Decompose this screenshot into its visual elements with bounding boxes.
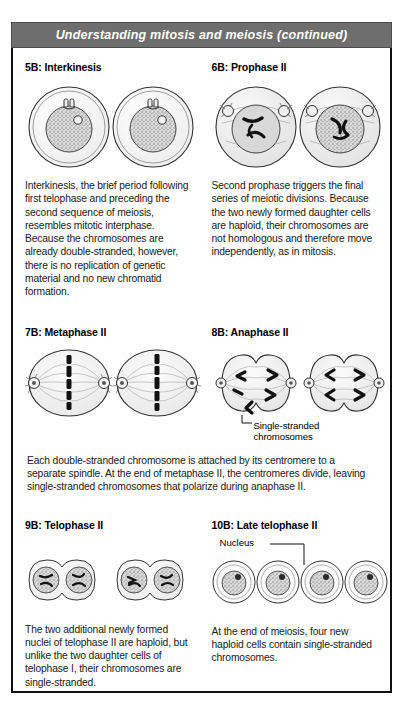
annotation-label-10B: Nucleus bbox=[220, 537, 255, 548]
haploid-cell-2 bbox=[257, 561, 299, 603]
figure-7B bbox=[25, 344, 192, 422]
anaphase-cell-2 bbox=[304, 355, 384, 411]
figure-content: 5B: Interkinesis bbox=[13, 48, 390, 693]
shared-caption-row: Each double-stranded chromosome is attac… bbox=[13, 454, 390, 494]
interkinesis-diagram bbox=[25, 79, 195, 171]
prophase-cell-2 bbox=[300, 87, 380, 167]
panel-heading-8B: 8B: Anaphase II bbox=[212, 326, 381, 338]
prophase-cell-1 bbox=[216, 87, 296, 167]
panel-body-10B: At the end of meiosis, four new haploid … bbox=[212, 625, 381, 665]
haploid-cell-3 bbox=[301, 561, 343, 603]
panel-body-6B: Second prophase triggers the final serie… bbox=[212, 179, 381, 259]
panel-heading-5B: 5B: Interkinesis bbox=[25, 61, 192, 73]
panel-body-5B: Interkinesis, the brief period following… bbox=[25, 179, 192, 299]
telophase-pair-2 bbox=[117, 560, 183, 600]
panel-row-1: 5B: Interkinesis bbox=[13, 48, 390, 299]
annotation-nucleus: Nucleus bbox=[220, 537, 381, 548]
prophase-two-diagram bbox=[212, 79, 382, 171]
aster-right-a1 bbox=[286, 378, 296, 388]
shared-caption: Each double-stranded chromosome is attac… bbox=[27, 454, 376, 494]
telophase-two-diagram bbox=[25, 555, 201, 605]
late-telophase-diagram bbox=[212, 557, 388, 607]
figure-10B bbox=[212, 557, 381, 607]
aster-left-a2 bbox=[304, 378, 314, 388]
panel-5B: 5B: Interkinesis bbox=[13, 48, 202, 299]
figure-8B bbox=[212, 344, 381, 422]
haploid-cell-1 bbox=[213, 561, 255, 603]
panel-body-9B: The two additional newly formed nuclei o… bbox=[25, 623, 192, 689]
panel-heading-9B: 9B: Telophase II bbox=[25, 519, 192, 531]
panel-6B: 6B: Prophase II bbox=[202, 48, 391, 299]
panel-row-3: 9B: Telophase II bbox=[13, 506, 390, 689]
panel-9B: 9B: Telophase II bbox=[13, 506, 202, 689]
interkinesis-cell-1 bbox=[29, 87, 109, 167]
figure-9B bbox=[25, 555, 192, 605]
telophase-pair-1 bbox=[29, 560, 95, 600]
panel-row-2: 7B: Metaphase II bbox=[13, 313, 390, 442]
panel-heading-10B: 10B: Late telophase II bbox=[212, 519, 381, 531]
annotation-single-stranded-chromosomes: Single-stranded chromosomes bbox=[254, 420, 381, 442]
figure-title-bar: Understanding mitosis and meiosis (conti… bbox=[11, 22, 392, 48]
figure-5B bbox=[25, 79, 192, 171]
leader-line-icon bbox=[241, 414, 253, 426]
panel-8B: 8B: Anaphase II bbox=[202, 313, 391, 442]
figure-6B bbox=[212, 79, 381, 171]
panel-10B: 10B: Late telophase II Nucleus bbox=[202, 506, 391, 689]
panel-heading-6B: 6B: Prophase II bbox=[212, 61, 381, 73]
aster-left-a1 bbox=[216, 378, 226, 388]
metaphase-cell-1 bbox=[25, 350, 113, 416]
figure-page: Understanding mitosis and meiosis (conti… bbox=[0, 0, 413, 704]
anaphase-two-diagram bbox=[212, 344, 388, 422]
interkinesis-cell-2 bbox=[113, 87, 193, 167]
page-title-continued: (continued) bbox=[277, 28, 347, 42]
metaphase-two-diagram bbox=[25, 344, 201, 422]
aster-right-a2 bbox=[374, 378, 384, 388]
metaphase-cell-2 bbox=[113, 350, 201, 416]
anaphase-cell-1 bbox=[216, 355, 296, 413]
panel-heading-7B: 7B: Metaphase II bbox=[25, 326, 192, 338]
page-title-main: Understanding mitosis and meiosis bbox=[56, 28, 274, 42]
annotation-label-8B: Single-stranded chromosomes bbox=[254, 420, 320, 442]
panel-7B: 7B: Metaphase II bbox=[13, 313, 202, 442]
haploid-cell-4 bbox=[345, 561, 387, 603]
page-title: Understanding mitosis and meiosis (conti… bbox=[56, 28, 348, 42]
